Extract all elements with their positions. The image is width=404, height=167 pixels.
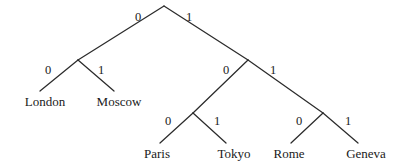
edges-group: [40, 6, 358, 143]
edge-n0-left-label: 0: [45, 64, 51, 77]
tree-edges-canvas: [0, 0, 404, 167]
leaf-label-tokyo: Tokyo: [217, 147, 250, 160]
binary-tree-diagram: 0101010101 LondonMoscowParisTokyoRomeGen…: [0, 0, 404, 167]
edge-root-right-label: 1: [186, 11, 192, 24]
leaf-label-geneva: Geneva: [346, 147, 386, 160]
leaf-label-paris: Paris: [144, 147, 170, 160]
edge-n11-left-label: 0: [296, 115, 302, 128]
edge-root-left-label: 0: [135, 11, 141, 24]
leaf-label-london: London: [25, 95, 65, 108]
edge-n10-right-label: 1: [214, 115, 220, 128]
edge-n1-left: [193, 60, 248, 113]
edge-n11-right-label: 1: [345, 115, 351, 128]
leaf-label-rome: Rome: [273, 147, 304, 160]
edge-root-left: [78, 6, 164, 60]
edge-n10-left-label: 0: [165, 115, 171, 128]
edge-n1-right: [248, 60, 323, 113]
edge-n0-right-label: 1: [98, 64, 104, 77]
leaf-label-moscow: Moscow: [97, 95, 142, 108]
edge-n1-left-label: 0: [223, 64, 229, 77]
edge-n11-right: [323, 113, 358, 143]
edge-root-right: [164, 6, 248, 60]
edge-n1-right-label: 1: [270, 64, 276, 77]
edge-n0-right: [78, 60, 114, 91]
edge-n10-right: [193, 113, 226, 143]
